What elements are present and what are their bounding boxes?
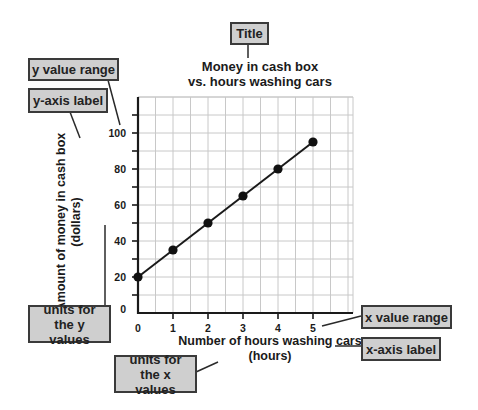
svg-text:80: 80	[114, 163, 126, 175]
svg-text:60: 60	[114, 199, 126, 211]
callout-x-axis-label: x-axis label	[361, 337, 441, 361]
callout-units-y: units for the y values	[28, 305, 111, 343]
svg-text:0: 0	[135, 322, 141, 334]
svg-text:3: 3	[240, 322, 246, 334]
svg-text:0: 0	[120, 303, 126, 315]
chart-title-line-1: Money in cash box	[150, 59, 370, 74]
x-axis-label-text: Number of hours washing cars	[150, 334, 390, 349]
svg-text:20: 20	[114, 271, 126, 283]
svg-text:40: 40	[114, 235, 126, 247]
chart-grid	[138, 97, 353, 313]
svg-text:1: 1	[170, 322, 176, 334]
callout-units-x: units for the x values	[114, 355, 197, 393]
chart-title-line-2: vs. hours washing cars	[150, 74, 370, 89]
svg-text:4: 4	[275, 322, 281, 334]
callout-y-axis-label: y-axis label	[28, 88, 108, 113]
callout-x-value-range: x value range	[361, 305, 452, 329]
svg-text:100: 100	[108, 127, 126, 139]
callout-title: Title	[230, 22, 269, 45]
chart-title: Money in cash box vs. hours washing cars	[150, 59, 370, 89]
svg-text:5: 5	[310, 322, 316, 334]
svg-text:2: 2	[205, 322, 211, 334]
callout-y-value-range: y value range	[28, 58, 119, 81]
